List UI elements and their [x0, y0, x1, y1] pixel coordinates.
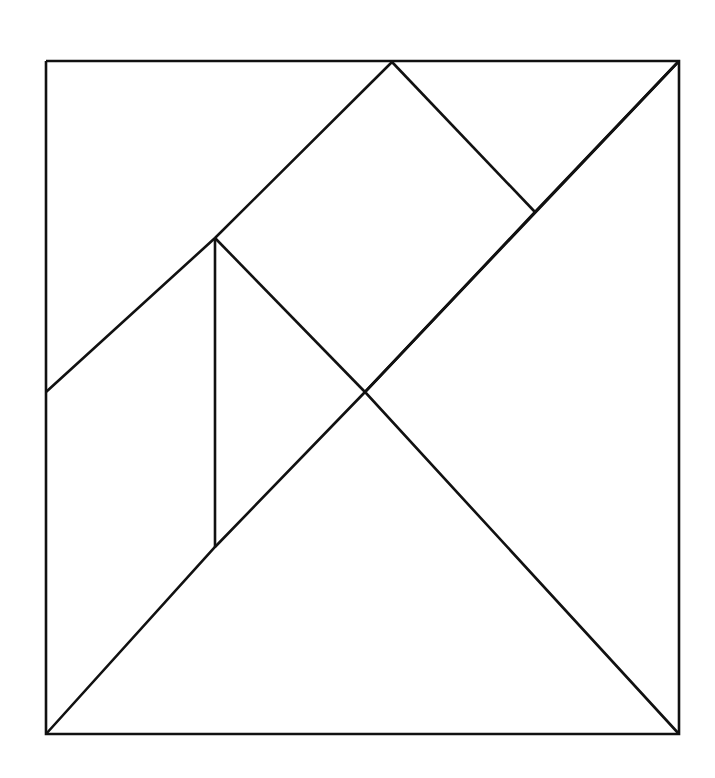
cut-apex-to-left-edge: [46, 62, 392, 392]
cut-apex-to-right-notch: [392, 62, 535, 212]
cut-diagonal-tr-to-br: [365, 61, 679, 734]
tangram-svg: [0, 0, 715, 778]
cut-junction-to-center: [215, 238, 365, 392]
tangram-figure-canvas: [0, 0, 715, 778]
